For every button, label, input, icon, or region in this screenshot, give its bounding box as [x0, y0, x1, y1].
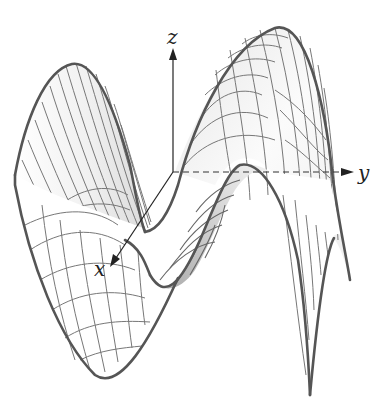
y-axis-arrow-icon [341, 168, 354, 176]
x-axis-label: x [94, 257, 105, 281]
z-axis-label: z [166, 25, 178, 49]
y-axis-label: y [357, 161, 370, 185]
saddle-surface-diagram: z y x [0, 0, 386, 409]
z-axis-arrow-icon [169, 48, 177, 60]
